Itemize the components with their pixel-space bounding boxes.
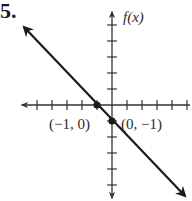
point-x-intercept-label: (−1, 0) [49, 116, 90, 133]
function-graph: f(x) (−1, 0) (0, −1) [0, 0, 192, 201]
y-axis-label: f(x) [123, 9, 144, 26]
point-y-intercept-label: (0, −1) [121, 116, 162, 133]
point-y-intercept [108, 117, 115, 124]
function-line [24, 27, 185, 196]
point-x-intercept [93, 101, 100, 108]
